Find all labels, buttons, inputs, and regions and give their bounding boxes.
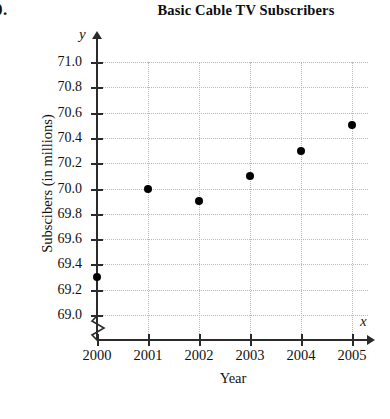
y-axis-tick [91, 87, 103, 89]
x-axis-tick-label: 2000 [69, 347, 125, 364]
gridline-horizontal [97, 62, 368, 63]
x-axis-tick [301, 334, 303, 346]
axis-break-icon [88, 315, 108, 341]
gridline-vertical [301, 62, 302, 340]
x-axis-tick [352, 334, 354, 346]
x-axis-tick [148, 334, 150, 346]
gridline-horizontal [97, 315, 368, 316]
y-axis-tick [91, 113, 103, 115]
gridline-vertical [352, 62, 353, 340]
gridline-horizontal [97, 239, 368, 240]
gridline-horizontal [97, 290, 368, 291]
x-axis-tick-label: 2002 [171, 347, 227, 364]
y-axis-title: Subscibers (in millions) [39, 79, 56, 289]
data-point [297, 147, 305, 155]
y-axis-tick [91, 138, 103, 140]
x-axis-tick [199, 334, 201, 346]
y-axis-variable-label: y [79, 26, 86, 43]
data-point [246, 172, 254, 180]
scatter-plot: y x 71.070.870.670.470.270.069.869.669.4… [0, 0, 390, 419]
data-point [144, 185, 152, 193]
y-axis-tick [91, 214, 103, 216]
data-point [195, 197, 203, 205]
data-point [348, 121, 356, 129]
x-axis-variable-label: x [360, 313, 367, 330]
x-axis-tick-label: 2001 [120, 347, 176, 364]
x-axis-tick-label: 2005 [324, 347, 380, 364]
x-axis-tick-label: 2004 [273, 347, 329, 364]
x-axis-arrow-icon [367, 335, 375, 345]
gridline-horizontal [97, 264, 368, 265]
gridline-horizontal [97, 138, 368, 139]
x-axis-tick [250, 334, 252, 346]
gridline-horizontal [97, 163, 368, 164]
y-axis-tick [91, 189, 103, 191]
gridline-horizontal [97, 87, 368, 88]
y-axis-tick [91, 264, 103, 266]
y-axis-arrow-icon [92, 31, 102, 39]
gridline-vertical [148, 62, 149, 340]
y-axis-tick [91, 290, 103, 292]
data-point [93, 273, 101, 281]
gridline-horizontal [97, 189, 368, 190]
gridline-vertical [250, 62, 251, 340]
y-axis-tick [91, 62, 103, 64]
x-axis-title: Year [97, 370, 369, 387]
gridline-horizontal [97, 214, 368, 215]
y-axis-tick-label: 71.0 [32, 55, 82, 69]
x-axis-tick-label: 2003 [222, 347, 278, 364]
y-axis-tick [91, 163, 103, 165]
y-axis-tick [91, 239, 103, 241]
y-axis-tick-label: 69.0 [32, 308, 82, 322]
gridline-horizontal [97, 113, 368, 114]
x-axis-line [97, 339, 369, 341]
